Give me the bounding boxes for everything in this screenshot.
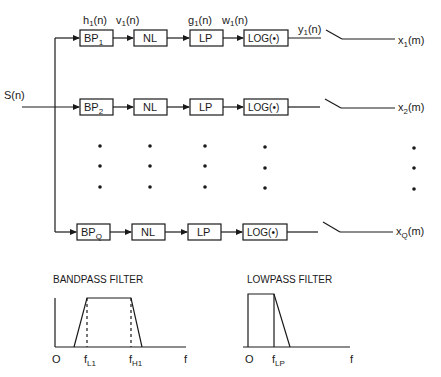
svg-text:BP1: BP1	[84, 32, 104, 47]
sampler-switch-2	[325, 99, 341, 108]
sampler-switch-1	[326, 30, 342, 39]
svg-text:fLP: fLP	[272, 353, 285, 368]
nl-label: NL	[143, 32, 157, 44]
svg-text:f: f	[184, 353, 188, 365]
svg-text:w1(n): w1(n)	[221, 14, 248, 28]
svg-text:x1(m): x1(m)	[398, 34, 424, 49]
svg-text:x2(m): x2(m)	[398, 101, 424, 116]
lowpass-title: LOWPASS FILTER	[247, 274, 332, 285]
svg-text:LOG(•): LOG(•)	[248, 33, 279, 44]
svg-text:LP: LP	[197, 226, 210, 238]
ellipsis-dots	[98, 144, 416, 191]
bandpass-title: BANDPASS FILTER	[53, 274, 143, 285]
svg-text:NL: NL	[141, 226, 155, 238]
svg-text:NL: NL	[143, 101, 157, 113]
svg-text:f: f	[350, 353, 354, 365]
svg-text:fL1: fL1	[84, 353, 97, 368]
svg-text:LOG(•): LOG(•)	[248, 102, 279, 113]
svg-text:LOG(•): LOG(•)	[247, 227, 278, 238]
svg-text:y1(n): y1(n)	[298, 23, 321, 37]
filterbank-diagram: S(n) BP1 NL LP LOG(•) h1(n) v1(n) g1(n) …	[0, 0, 441, 377]
svg-text:BP2: BP2	[84, 101, 104, 116]
svg-text:O: O	[52, 353, 61, 365]
svg-text:O: O	[245, 353, 254, 365]
svg-text:LP: LP	[199, 32, 212, 44]
svg-text:LP: LP	[199, 101, 212, 113]
sampler-switch-q	[323, 222, 340, 232]
svg-text:xQ(m): xQ(m)	[396, 225, 424, 240]
svg-text:h1(n): h1(n)	[83, 14, 107, 28]
svg-text:BPQ: BPQ	[81, 226, 102, 241]
bandpass-graph	[55, 298, 186, 347]
svg-text:g1(n): g1(n)	[188, 14, 212, 28]
svg-text:fH1: fH1	[129, 353, 143, 368]
lowpass-graph	[243, 294, 350, 347]
input-label: S(n)	[4, 89, 25, 101]
svg-text:v1(n): v1(n)	[116, 14, 139, 28]
